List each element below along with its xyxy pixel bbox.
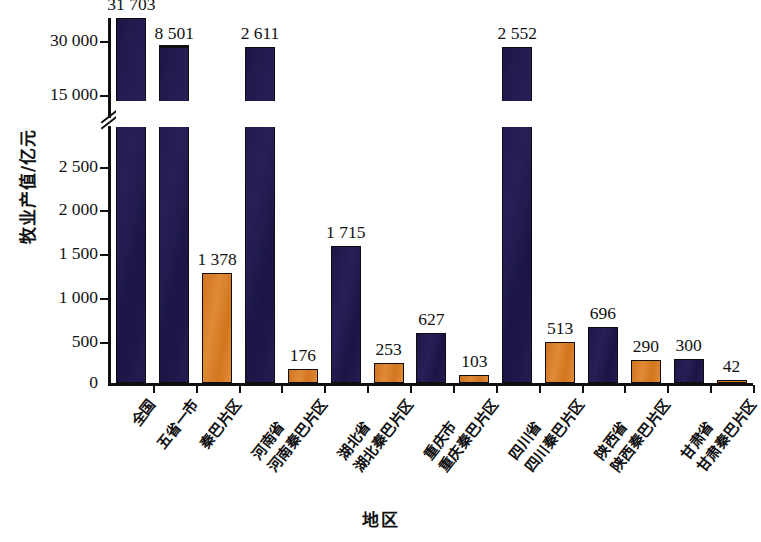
y-tick-label: 15 000 — [12, 86, 98, 104]
bar-value-label: 1 715 — [326, 224, 365, 242]
x-tick-mark — [281, 385, 283, 393]
bar-slot: 300 — [674, 0, 704, 383]
x-axis-title: 地区 — [0, 506, 761, 531]
bar-cap-rule — [159, 45, 189, 48]
y-axis-tick-labels: 30 000 15 000 2 500 2 000 1 500 1 000 50… — [0, 0, 98, 542]
bar-slot: 42 — [717, 0, 747, 383]
bar-chart: 牧业产值/亿元 30 000 15 000 2 500 2 000 1 500 … — [0, 0, 761, 542]
bar-value-label: 103 — [461, 353, 487, 371]
x-tick-mark — [624, 385, 626, 393]
bar-value-label: 31 703 — [107, 0, 155, 14]
bar-value-label: 253 — [376, 341, 402, 359]
bar-value-label: 42 — [723, 358, 741, 376]
bar-value-label: 627 — [418, 311, 444, 329]
bar-slot: 8 501 — [159, 0, 189, 383]
bar-value-label: 513 — [547, 320, 573, 338]
x-tick-mark — [196, 385, 198, 393]
x-tick-mark — [710, 385, 712, 393]
x-tick-mark — [753, 385, 755, 393]
bar-slot: 2 552 — [502, 0, 532, 383]
bar-slot: 290 — [631, 0, 661, 383]
x-tick-mark — [324, 385, 326, 393]
y-tick-label: 2 500 — [12, 158, 98, 176]
bar[interactable] — [717, 380, 747, 383]
bar-slot: 1 715 — [331, 0, 361, 383]
y-tick-label: 2 000 — [12, 201, 98, 219]
bar-slot: 627 — [416, 0, 446, 383]
y-tick-label: 1 500 — [12, 245, 98, 263]
axis-break-gap — [116, 101, 146, 127]
x-tick-mark — [582, 385, 584, 393]
x-tick-mark — [153, 385, 155, 393]
bar-value-label: 2 552 — [498, 25, 537, 43]
bar[interactable] — [674, 359, 704, 383]
bar[interactable] — [159, 47, 189, 383]
bar-value-label: 300 — [676, 337, 702, 355]
bar[interactable] — [631, 360, 661, 383]
bar[interactable] — [588, 327, 618, 383]
bar[interactable] — [502, 47, 532, 383]
bar-slot: 253 — [374, 0, 404, 383]
bar-slot: 176 — [288, 0, 318, 383]
bar-slot: 2 611 — [245, 0, 275, 383]
x-tick-mark — [410, 385, 412, 393]
bar-slot: 1 378 — [202, 0, 232, 383]
bar[interactable] — [459, 375, 489, 383]
x-axis-line — [108, 383, 753, 386]
axis-break-gap — [502, 101, 532, 127]
y-tick-label: 0 — [12, 374, 98, 392]
bar[interactable] — [374, 363, 404, 383]
bar-slot: 103 — [459, 0, 489, 383]
x-tick-mark — [367, 385, 369, 393]
bar-slot: 513 — [545, 0, 575, 383]
bar[interactable] — [245, 47, 275, 383]
bar[interactable] — [545, 342, 575, 383]
bar[interactable] — [416, 333, 446, 383]
y-tick-label: 30 000 — [12, 32, 98, 50]
x-tick-mark — [496, 385, 498, 393]
x-axis-label: 全国 — [126, 394, 160, 430]
axis-break-gap — [245, 101, 275, 127]
bar-value-label: 8 501 — [155, 25, 194, 43]
bar[interactable] — [202, 273, 232, 383]
y-tick-label: 500 — [12, 333, 98, 351]
bar-value-label: 290 — [633, 338, 659, 356]
bar-slot: 696 — [588, 0, 618, 383]
x-axis-label: 五省一市 — [151, 394, 203, 453]
y-tick-label: 1 000 — [12, 289, 98, 307]
bar-slot: 31 703 — [116, 0, 146, 383]
x-axis-label: 秦巴片区 — [193, 394, 245, 453]
bar[interactable] — [331, 246, 361, 383]
bar[interactable] — [116, 18, 146, 383]
bar-value-label: 176 — [290, 347, 316, 365]
x-tick-mark — [453, 385, 455, 393]
x-tick-mark — [239, 385, 241, 393]
bar[interactable] — [288, 369, 318, 383]
x-tick-mark — [667, 385, 669, 393]
bar-value-label: 696 — [590, 305, 616, 323]
bar-value-label: 1 378 — [197, 251, 236, 269]
x-tick-mark — [539, 385, 541, 393]
plot-area: 31 7038 5011 3782 6111761 7152536271032 … — [110, 0, 753, 383]
bar-value-label: 2 611 — [241, 25, 280, 43]
axis-break-gap — [159, 101, 189, 127]
